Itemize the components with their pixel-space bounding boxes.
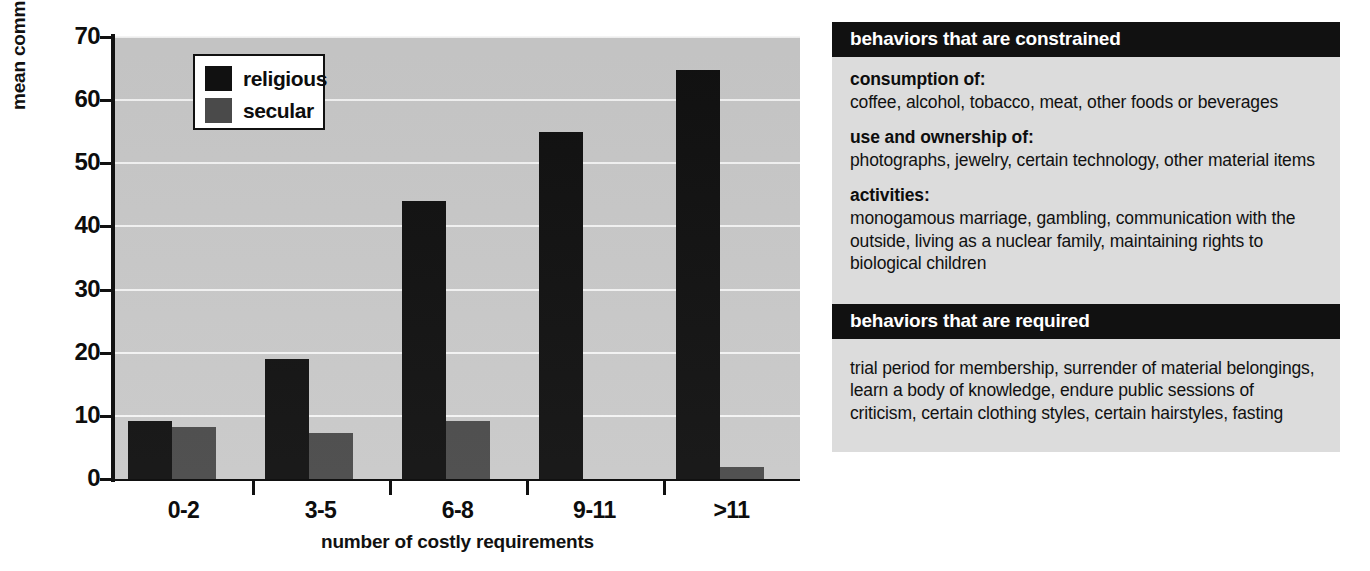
bar-secular-0-2 xyxy=(172,427,216,479)
x-tick-mark-3 xyxy=(663,481,666,495)
x-tick-label->11: >11 xyxy=(663,497,800,524)
x-tick-label-3-5: 3-5 xyxy=(252,497,389,524)
group-title-activities: activities: xyxy=(850,185,1324,206)
y-tick-label-0: 0 xyxy=(54,466,100,490)
y-tick-label-50: 50 xyxy=(54,150,100,174)
panel-constrained-header: behaviors that are constrained xyxy=(832,22,1340,57)
bar-religious-6-8 xyxy=(402,201,446,479)
chart-legend: religious secular xyxy=(193,54,325,130)
side-panel: behaviors that are constrained consumpti… xyxy=(832,22,1340,452)
bar-religious-0-2 xyxy=(128,421,172,479)
y-tick-label-40: 40 xyxy=(54,213,100,237)
panel-divider-gap xyxy=(832,290,1340,304)
panel-group-ownership: use and ownership of: photographs, jewel… xyxy=(850,127,1324,171)
y-axis-title: mean commune duration (years) xyxy=(8,0,30,110)
x-axis-title: number of costly requirements xyxy=(115,531,800,553)
panel-required-text: trial period for membership, surrender o… xyxy=(850,357,1324,424)
panel-required-body: trial period for membership, surrender o… xyxy=(832,339,1340,450)
x-tick-mark-2 xyxy=(526,481,529,495)
y-tick-mark-30 xyxy=(100,289,113,292)
y-tick-mark-40 xyxy=(100,225,113,228)
group-title-ownership: use and ownership of: xyxy=(850,127,1324,148)
gridline-70 xyxy=(115,36,800,38)
panel-constrained: behaviors that are constrained consumpti… xyxy=(832,22,1340,290)
bar-religious-3-5 xyxy=(265,359,309,479)
legend-swatch-secular xyxy=(205,98,232,123)
y-tick-label-60: 60 xyxy=(54,87,100,111)
x-tick-label-6-8: 6-8 xyxy=(389,497,526,524)
panel-group-activities: activities: monogamous marriage, gamblin… xyxy=(850,185,1324,274)
group-text-consumption: coffee, alcohol, tobacco, meat, other fo… xyxy=(850,91,1324,113)
y-tick-label-20: 20 xyxy=(54,340,100,364)
panel-group-consumption: consumption of: coffee, alcohol, tobacco… xyxy=(850,69,1324,113)
y-tick-mark-10 xyxy=(100,415,113,418)
x-tick-label-9-11: 9-11 xyxy=(526,497,663,524)
legend-item-religious: religious xyxy=(205,63,323,93)
y-tick-label-70: 70 xyxy=(54,24,100,48)
y-tick-mark-20 xyxy=(100,352,113,355)
legend-item-secular: secular xyxy=(205,95,323,125)
bar-secular-3-5 xyxy=(309,433,353,479)
bar-secular->11 xyxy=(720,467,764,479)
y-tick-mark-0 xyxy=(100,478,113,481)
y-tick-label-30: 30 xyxy=(54,277,100,301)
group-title-consumption: consumption of: xyxy=(850,69,1324,90)
bar-religious-9-11 xyxy=(539,132,583,479)
y-tick-mark-60 xyxy=(100,99,113,102)
x-tick-label-0-2: 0-2 xyxy=(115,497,252,524)
panel-required-header: behaviors that are required xyxy=(832,304,1340,339)
legend-swatch-religious xyxy=(205,66,232,91)
y-axis-tick-labels: 010203040506070 xyxy=(50,0,100,571)
legend-label-religious: religious xyxy=(243,68,327,89)
panel-constrained-body: consumption of: coffee, alcohol, tobacco… xyxy=(832,57,1340,288)
panel-required: behaviors that are required trial period… xyxy=(832,304,1340,452)
group-text-activities: monogamous marriage, gambling, communica… xyxy=(850,207,1324,274)
y-tick-label-10: 10 xyxy=(54,403,100,427)
group-text-ownership: photographs, jewelry, certain technology… xyxy=(850,149,1324,171)
bar-chart-figure: mean commune duration (years) 0102030405… xyxy=(0,0,815,571)
bar-secular-6-8 xyxy=(446,421,490,479)
y-tick-mark-70 xyxy=(100,36,113,39)
y-tick-mark-50 xyxy=(100,162,113,165)
x-tick-mark-0 xyxy=(252,481,255,495)
legend-label-secular: secular xyxy=(243,100,314,121)
x-tick-mark-1 xyxy=(389,481,392,495)
bar-religious->11 xyxy=(676,70,720,479)
